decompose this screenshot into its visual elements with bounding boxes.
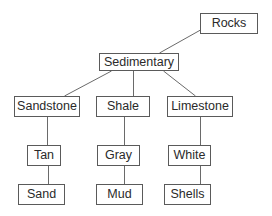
node-sand: Sand (18, 184, 65, 205)
rock-classification-tree: Rocks Sedimentary Sandstone Shale Limest… (0, 0, 272, 216)
edge-sedimentary-sandstone (65, 71, 112, 96)
node-gray: Gray (97, 145, 140, 166)
node-rocks: Rocks (200, 13, 258, 34)
node-sandstone: Sandstone (14, 96, 80, 117)
node-limestone: Limestone (167, 96, 233, 117)
node-shale: Shale (96, 96, 150, 117)
node-white: White (168, 145, 211, 166)
edge-sedimentary-limestone (164, 71, 196, 96)
edge-rocks-sedimentary (160, 30, 201, 53)
node-sedimentary: Sedimentary (99, 53, 179, 71)
node-tan: Tan (27, 145, 61, 166)
node-mud: Mud (96, 184, 143, 205)
node-shells: Shells (164, 184, 211, 205)
